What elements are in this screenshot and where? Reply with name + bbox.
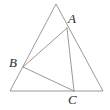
vertex-label-b: B xyxy=(9,56,17,69)
inner-triangle xyxy=(23,28,74,91)
segment-BC xyxy=(23,67,74,91)
vertex-label-c: C xyxy=(68,93,77,106)
outer-side-left xyxy=(10,4,56,91)
vertex-marker-a xyxy=(66,27,67,28)
geometry-figure: A B C xyxy=(0,0,110,110)
outer-side-right xyxy=(56,4,103,91)
vertex-marker-b xyxy=(22,66,23,67)
segment-CA xyxy=(67,28,74,91)
segment-AB xyxy=(23,28,67,67)
outer-triangle xyxy=(10,4,103,91)
vertex-label-a: A xyxy=(68,12,76,25)
vertex-markers xyxy=(22,27,74,91)
